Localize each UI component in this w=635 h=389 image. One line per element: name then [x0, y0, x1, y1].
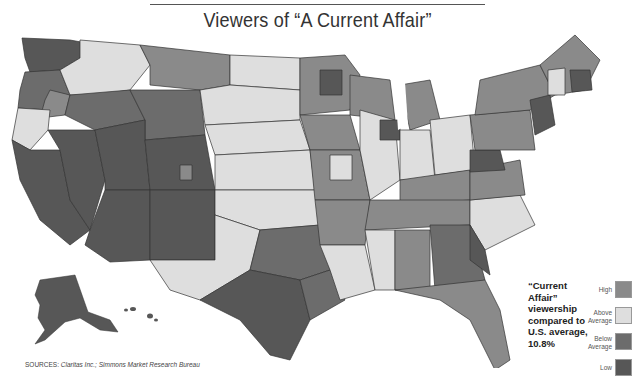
- region-florida: [395, 280, 510, 368]
- region-alabama: [395, 230, 430, 290]
- legend-label: Above Average: [578, 309, 612, 324]
- title-rule: [150, 4, 485, 5]
- region-alaska: [35, 275, 118, 344]
- legend-swatch-low: [615, 359, 632, 376]
- legend-swatch-below-average: [615, 333, 632, 350]
- region-hawaii: [124, 307, 158, 322]
- region-ny-city: [530, 95, 555, 135]
- legend-swatch-high: [615, 281, 632, 298]
- region-pennsylvania: [470, 110, 535, 150]
- region-south-dakota: [200, 85, 300, 125]
- region-missouri-light: [330, 155, 352, 180]
- region-iowa: [300, 115, 360, 150]
- legend-label: Below Average: [578, 335, 612, 350]
- legend-item-above-average: Above Average: [570, 307, 634, 325]
- region-texas-central: [250, 225, 330, 280]
- legend-label: Low: [600, 364, 612, 372]
- region-vermont: [548, 68, 565, 95]
- region-boston: [570, 70, 592, 92]
- region-chicago: [380, 120, 400, 140]
- region-colorado: [145, 135, 215, 190]
- region-new-mexico: [150, 190, 215, 260]
- region-north-dakota: [230, 55, 300, 90]
- region-arkansas: [315, 200, 370, 245]
- region-montana-e: [140, 45, 230, 90]
- legend-swatch-above-average: [615, 307, 632, 324]
- legend-item-low: Low: [570, 359, 634, 377]
- sources-note: SOURCES: Claritas Inc.; Simmons Market R…: [25, 361, 200, 368]
- region-wv: [470, 150, 505, 172]
- region-nebraska: [205, 120, 310, 155]
- legend-item-below-average: Below Average: [570, 333, 634, 351]
- region-ohio: [430, 115, 475, 175]
- legend-item-high: High: [570, 281, 634, 299]
- region-indiana: [400, 130, 435, 180]
- region-kansas: [215, 150, 315, 190]
- region-colorado-spot: [180, 165, 192, 180]
- legend-label: High: [599, 286, 612, 294]
- sources-text: Claritas Inc.; Simmons Market Research B…: [61, 361, 200, 368]
- sources-prefix: SOURCES:: [25, 361, 59, 368]
- region-minnesota-spot: [320, 70, 342, 95]
